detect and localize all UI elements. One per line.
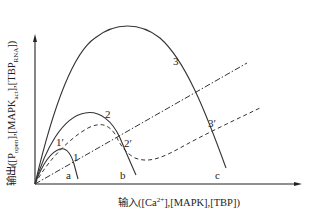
y-axis-label: 输出([Popen],[MAPKact],[TBPRNA]) bbox=[3, 41, 20, 186]
label-3-prime: 3′ bbox=[208, 118, 216, 129]
x-axis-label: 输入([Ca2+],[MAPK],[TBP]) bbox=[118, 194, 240, 209]
diagram-canvas bbox=[0, 0, 309, 219]
response-curves-diagram: 1 1′ 2 2′ 3 3′ a b c 输出([Popen],[MAPKact… bbox=[0, 0, 309, 219]
x-point-b: b bbox=[120, 170, 126, 181]
label-2-prime: 2′ bbox=[124, 138, 132, 149]
x-axis-arrow-icon bbox=[294, 182, 302, 186]
label-1: 1 bbox=[73, 152, 79, 163]
x-point-c: c bbox=[215, 170, 220, 181]
label-2: 2 bbox=[105, 109, 111, 120]
label-3: 3 bbox=[173, 56, 179, 67]
label-1-prime: 1′ bbox=[56, 137, 64, 148]
curve-3 bbox=[35, 26, 226, 184]
y-axis-arrow-icon bbox=[33, 34, 37, 42]
x-point-a: a bbox=[66, 170, 71, 181]
